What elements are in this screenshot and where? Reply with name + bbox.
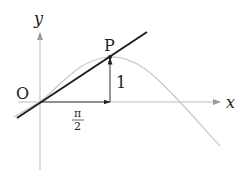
x-tick-denominator: 2 [74, 120, 81, 133]
y-axis-label: y [33, 9, 44, 28]
origin-label: O [16, 84, 29, 103]
diagram-canvas: y x O P 1 π 2 [0, 0, 250, 178]
height-label: 1 [116, 73, 126, 92]
sine-curve [14, 57, 220, 146]
x-tick-numerator: π [74, 107, 81, 120]
x-axis-label: x [226, 93, 235, 112]
point-p-label: P [104, 36, 115, 55]
point-p-marker [108, 55, 112, 59]
tangent-line [17, 32, 147, 118]
